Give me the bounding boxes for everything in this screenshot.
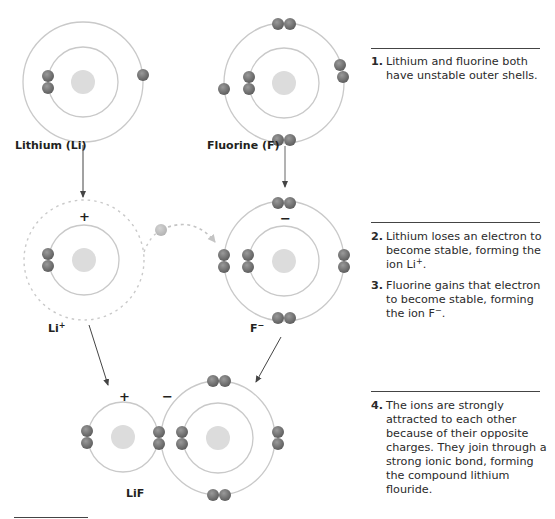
lithium-ion-symbol: Li xyxy=(48,322,59,335)
step-text-sup: − xyxy=(435,306,442,315)
transferring-electron xyxy=(144,224,215,252)
divider-step-1 xyxy=(371,48,540,49)
arrow-f-ion xyxy=(256,337,281,382)
step-4: 4. The ions are strongly attracted to ea… xyxy=(371,399,551,497)
step-text: Lithium loses an electron to become stab… xyxy=(371,230,551,272)
fluoride-ion-charge: − xyxy=(280,212,291,225)
step-text: The ions are strongly attracted to each … xyxy=(371,399,551,497)
lithium-atom xyxy=(23,22,149,142)
electron xyxy=(137,69,149,81)
step-number: 4. xyxy=(371,399,383,413)
fluorine-atom xyxy=(218,18,349,146)
lithium-ion-label: Li+ xyxy=(48,322,65,335)
step-text: Fluorine gains that electron to become s… xyxy=(371,279,551,321)
electron xyxy=(42,70,54,82)
compound-label: LiF xyxy=(126,487,144,500)
fluoride-ion-label: F− xyxy=(250,322,264,335)
step-2: 2. Lithium loses an electron to become s… xyxy=(371,230,551,272)
divider-bottom xyxy=(14,517,88,518)
fluorine-label: Fluorine (F) xyxy=(207,139,280,152)
step-text-end: . xyxy=(423,258,427,271)
step-text-sup: + xyxy=(416,257,423,266)
step-number: 2. xyxy=(371,230,383,244)
fluoride-ion-symbol: F xyxy=(250,322,258,335)
step-number: 3. xyxy=(371,279,383,293)
step-text-main: Lithium loses an electron to become stab… xyxy=(386,230,542,271)
step-text-main: Fluorine gains that electron to become s… xyxy=(386,279,540,320)
lithium-label: Lithium (Li) xyxy=(15,139,87,152)
step-1: 1. Lithium and fluorine both have unstab… xyxy=(371,55,551,83)
step-3: 3. Fluorine gains that electron to becom… xyxy=(371,279,551,321)
arrow-li-ion xyxy=(89,325,108,385)
step-text-end: . xyxy=(442,307,446,320)
fluoride-ion-superscript: − xyxy=(258,321,265,330)
lithium-ion-charge: + xyxy=(79,210,90,223)
step-number: 1. xyxy=(371,55,383,69)
electron xyxy=(42,82,54,94)
compound-f-charge: − xyxy=(162,390,173,403)
divider-step-4 xyxy=(371,391,540,392)
divider-step-2 xyxy=(371,222,540,223)
compound-li-charge: + xyxy=(119,390,130,403)
nucleus xyxy=(71,70,95,94)
step-text: Lithium and fluorine both have unstable … xyxy=(371,55,551,83)
lif-compound xyxy=(81,375,284,501)
lithium-ion-superscript: + xyxy=(59,321,66,330)
